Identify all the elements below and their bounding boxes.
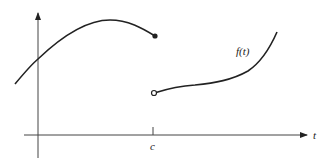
diagram-canvas: f(t) t c <box>0 0 327 162</box>
function-label: f(t) <box>236 45 250 58</box>
closed-endpoint-dot <box>152 33 157 38</box>
open-endpoint-circle <box>152 91 157 96</box>
x-axis-label: t <box>313 129 317 141</box>
discontinuity-label: c <box>150 140 155 152</box>
curve-left-piece <box>15 20 155 84</box>
curve-right-piece <box>156 32 277 93</box>
